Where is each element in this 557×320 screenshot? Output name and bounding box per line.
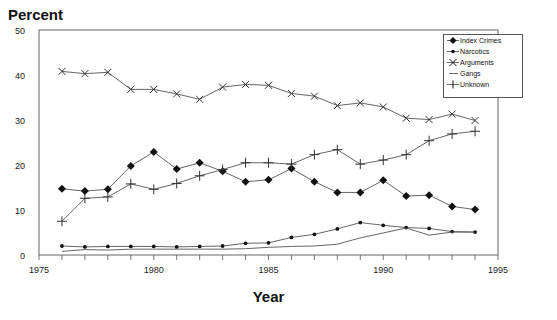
diamond-marker [58, 185, 66, 193]
dot-marker [244, 241, 248, 245]
legend-item-unknown: Unknown [444, 79, 522, 90]
diamond-marker [379, 176, 387, 184]
legend-item-narcotics: Narcotics [444, 46, 522, 57]
diamond-marker [310, 178, 318, 186]
dot-marker [129, 245, 133, 249]
x-tick-label: 1985 [258, 265, 278, 275]
diamond-marker [425, 191, 433, 199]
x-marker [173, 90, 180, 97]
plus-marker [286, 159, 296, 169]
y-tick-label: 50 [15, 26, 25, 36]
dot-marker [175, 245, 179, 249]
legend: Index Crimes Narcotics Arguments Gangs U… [443, 34, 523, 98]
x-marker [449, 111, 456, 118]
diamond-marker [448, 202, 456, 210]
dot-marker [313, 232, 317, 236]
y-tick-label: 20 [15, 161, 25, 171]
series-line-gangs [62, 228, 475, 251]
dot-marker [335, 227, 339, 231]
plus-marker [195, 171, 205, 181]
dot-marker [427, 227, 431, 231]
x-marker [196, 96, 203, 103]
plus-marker [172, 178, 182, 188]
plus-marker-icon [447, 80, 459, 89]
x-marker-icon [447, 58, 459, 67]
dot-marker [83, 245, 87, 249]
x-axis-title: Year [0, 288, 537, 305]
line-marker-icon [447, 69, 459, 78]
plus-marker [241, 158, 251, 168]
plus-marker [424, 136, 434, 146]
x-tick-label: 1990 [373, 265, 393, 275]
plus-marker [355, 159, 365, 169]
dot-marker [152, 245, 156, 249]
plus-marker [401, 150, 411, 160]
diamond-marker [196, 159, 204, 167]
dot-marker [106, 245, 110, 249]
y-tick-label: 30 [15, 116, 25, 126]
legend-item-gangs: Gangs [444, 68, 522, 79]
dot-marker [358, 221, 362, 225]
plus-marker [103, 192, 113, 202]
plus-marker [378, 155, 388, 165]
x-tick-label: 1995 [488, 265, 508, 275]
dot-marker [221, 244, 225, 248]
legend-item-arguments: Arguments [444, 57, 522, 68]
plus-marker [470, 126, 480, 136]
plus-marker [332, 145, 342, 155]
y-tick-label: 0 [20, 251, 25, 261]
plus-marker [126, 179, 136, 189]
plus-marker [264, 158, 274, 168]
plus-marker [149, 184, 159, 194]
dot-marker [267, 241, 271, 245]
diamond-marker [356, 188, 364, 196]
legend-item-index-crimes: Index Crimes [444, 35, 522, 46]
diamond-marker [265, 176, 273, 184]
diamond-marker [150, 148, 158, 156]
x-marker [472, 117, 479, 124]
diamond-marker [173, 165, 181, 173]
y-tick-label: 10 [15, 206, 25, 216]
dot-marker [198, 245, 202, 249]
plus-marker [309, 150, 319, 160]
diamond-marker [242, 178, 250, 186]
y-tick-label: 40 [15, 71, 25, 81]
dot-marker [60, 244, 64, 248]
plus-marker [447, 129, 457, 139]
x-tick-label: 1975 [29, 265, 49, 275]
diamond-marker-icon [447, 36, 459, 45]
series-line-arguments [62, 71, 475, 120]
diamond-marker [402, 192, 410, 200]
dot-marker [381, 223, 385, 227]
diamond-marker [471, 206, 479, 214]
dot-marker [290, 236, 294, 240]
x-tick-label: 1980 [144, 265, 164, 275]
dot-marker-icon [447, 47, 459, 56]
diamond-marker [333, 188, 341, 196]
